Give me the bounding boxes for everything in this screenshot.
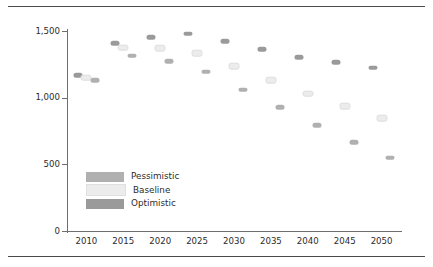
x-tick-label: 2025 bbox=[186, 236, 208, 246]
data-point-marker bbox=[339, 103, 350, 110]
data-point-marker bbox=[128, 53, 137, 58]
data-point-marker bbox=[312, 123, 321, 128]
data-point-marker bbox=[118, 44, 129, 51]
data-point-marker bbox=[302, 90, 313, 97]
data-point-marker bbox=[165, 59, 174, 64]
x-tick-label: 2045 bbox=[334, 236, 356, 246]
chart-figure: Thousands 05001,0001,500 201020152020202… bbox=[0, 0, 433, 267]
x-tick-label: 2030 bbox=[223, 236, 245, 246]
data-point-marker bbox=[184, 31, 193, 36]
y-tick-label: 1,000 bbox=[0, 93, 60, 102]
data-point-marker bbox=[202, 69, 211, 74]
x-tick-label: 2050 bbox=[371, 236, 393, 246]
legend-item[interactable]: Baseline bbox=[86, 184, 204, 198]
legend-item[interactable]: Optimistic bbox=[86, 197, 204, 211]
data-point-marker bbox=[91, 78, 100, 83]
data-point-marker bbox=[229, 63, 240, 70]
data-point-marker bbox=[349, 140, 358, 145]
data-point-marker bbox=[221, 39, 230, 44]
y-tick-mark bbox=[62, 31, 67, 32]
y-tick-label: 500 bbox=[0, 160, 60, 169]
data-point-marker bbox=[265, 77, 276, 84]
data-point-marker bbox=[368, 65, 377, 70]
chart-legend: Pessimistic Baseline Optimistic bbox=[86, 170, 204, 211]
data-point-marker bbox=[192, 50, 203, 57]
top-divider-rule bbox=[8, 6, 425, 7]
x-tick-label: 2035 bbox=[260, 236, 282, 246]
bottom-divider-rule bbox=[8, 256, 425, 257]
data-point-marker bbox=[147, 35, 156, 40]
x-tick-label: 2020 bbox=[149, 236, 171, 246]
data-point-marker bbox=[386, 155, 395, 160]
legend-label-optimistic: Optimistic bbox=[131, 199, 176, 208]
y-tick-label: 1,500 bbox=[0, 27, 60, 36]
data-point-marker bbox=[331, 60, 340, 65]
y-tick-mark bbox=[62, 231, 67, 232]
data-point-marker bbox=[376, 115, 387, 122]
legend-swatch-optimistic bbox=[86, 199, 124, 209]
y-tick-label: 0 bbox=[0, 227, 60, 236]
y-tick-mark bbox=[62, 164, 67, 165]
legend-label-pessimistic: Pessimistic bbox=[131, 172, 179, 181]
data-point-marker bbox=[275, 105, 284, 110]
x-tick-label: 2015 bbox=[112, 236, 134, 246]
y-tick-mark bbox=[62, 98, 67, 99]
legend-item[interactable]: Pessimistic bbox=[86, 170, 204, 184]
data-point-marker bbox=[238, 87, 247, 92]
legend-swatch-baseline bbox=[86, 184, 126, 196]
legend-label-baseline: Baseline bbox=[133, 186, 170, 195]
data-point-marker bbox=[258, 47, 267, 52]
x-axis-line bbox=[67, 231, 402, 232]
legend-swatch-pessimistic bbox=[86, 172, 124, 182]
x-tick-label: 2010 bbox=[75, 236, 97, 246]
x-tick-label: 2040 bbox=[297, 236, 319, 246]
data-point-marker bbox=[155, 45, 166, 52]
data-point-marker bbox=[294, 55, 303, 60]
